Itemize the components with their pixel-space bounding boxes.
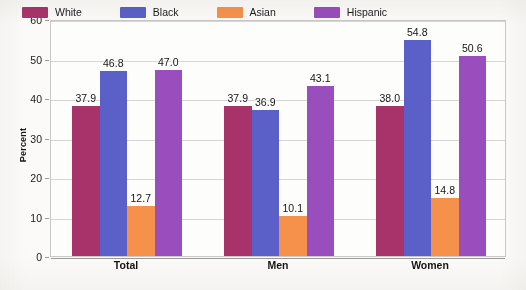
bar-group-women: 38.054.814.850.6 xyxy=(376,21,486,256)
bar-total-white[interactable]: 37.9 xyxy=(72,106,100,256)
bar-group-total: 37.946.812.747.0 xyxy=(72,21,182,256)
x-axis-category-labels: TotalMenWomen xyxy=(50,259,506,279)
x-label-women: Women xyxy=(411,259,449,271)
bar-value-label: 54.8 xyxy=(407,26,427,38)
y-tick-mark-0 xyxy=(45,257,49,258)
bar-women-asian[interactable]: 14.8 xyxy=(431,198,459,256)
y-tick-label-50: 50 xyxy=(14,54,42,66)
bar-fill xyxy=(100,71,128,256)
bar-fill xyxy=(127,206,155,256)
bar-value-label: 38.0 xyxy=(380,92,400,104)
bar-value-label: 47.0 xyxy=(158,56,178,68)
y-tick-mark-10 xyxy=(45,218,49,219)
legend-item-asian[interactable]: Asian xyxy=(217,6,276,18)
y-tick-mark-50 xyxy=(45,60,49,61)
bar-fill xyxy=(252,110,280,256)
plot-area: 37.946.812.747.037.936.910.143.138.054.8… xyxy=(50,20,506,257)
bar-value-label: 43.1 xyxy=(310,72,330,84)
bar-men-black[interactable]: 36.9 xyxy=(252,110,280,256)
bar-value-label: 14.8 xyxy=(435,184,455,196)
bar-fill xyxy=(155,70,183,256)
legend-item-black[interactable]: Black xyxy=(120,6,179,18)
x-label-total: Total xyxy=(114,259,138,271)
bar-fill xyxy=(279,216,307,256)
y-tick-label-10: 10 xyxy=(14,212,42,224)
y-tick-mark-40 xyxy=(45,99,49,100)
plot-inner: 37.946.812.747.037.936.910.143.138.054.8… xyxy=(51,21,505,256)
y-tick-label-40: 40 xyxy=(14,93,42,105)
y-tick-label-0: 0 xyxy=(14,251,42,263)
legend-item-white[interactable]: White xyxy=(22,6,82,18)
legend-label: Hispanic xyxy=(347,6,387,18)
y-tick-label-20: 20 xyxy=(14,172,42,184)
y-tick-mark-60 xyxy=(45,20,49,21)
bar-men-asian[interactable]: 10.1 xyxy=(279,216,307,256)
legend-swatch-icon-asian xyxy=(217,7,243,18)
bar-men-hispanic[interactable]: 43.1 xyxy=(307,86,335,256)
bar-fill xyxy=(459,56,487,256)
bar-value-label: 37.9 xyxy=(228,92,248,104)
bar-fill xyxy=(72,106,100,256)
x-label-men: Men xyxy=(268,259,289,271)
legend-swatch-icon-hispanic xyxy=(314,7,340,18)
bar-total-black[interactable]: 46.8 xyxy=(100,71,128,256)
bar-fill xyxy=(404,40,432,256)
bar-total-hispanic[interactable]: 47.0 xyxy=(155,70,183,256)
bar-value-label: 37.9 xyxy=(76,92,96,104)
bar-total-asian[interactable]: 12.7 xyxy=(127,206,155,256)
legend-label: Black xyxy=(153,6,179,18)
bar-fill xyxy=(431,198,459,256)
chart-legend: WhiteBlackAsianHispanic xyxy=(22,6,425,18)
y-tick-mark-20 xyxy=(45,178,49,179)
bar-men-white[interactable]: 37.9 xyxy=(224,106,252,256)
legend-item-hispanic[interactable]: Hispanic xyxy=(314,6,387,18)
bar-chart: Percent 37.946.812.747.037.936.910.143.1… xyxy=(0,0,526,290)
bar-value-label: 10.1 xyxy=(283,202,303,214)
bar-fill xyxy=(376,106,404,256)
legend-swatch-icon-black xyxy=(120,7,146,18)
bar-value-label: 50.6 xyxy=(462,42,482,54)
y-tick-mark-30 xyxy=(45,139,49,140)
bar-group-men: 37.936.910.143.1 xyxy=(224,21,334,256)
bar-fill xyxy=(224,106,252,256)
legend-swatch-icon-white xyxy=(22,7,48,18)
legend-label: White xyxy=(55,6,82,18)
bar-women-black[interactable]: 54.8 xyxy=(404,40,432,256)
bar-women-white[interactable]: 38.0 xyxy=(376,106,404,256)
y-tick-label-30: 30 xyxy=(14,133,42,145)
bar-value-label: 36.9 xyxy=(255,96,275,108)
legend-label: Asian xyxy=(250,6,276,18)
bar-fill xyxy=(307,86,335,256)
bar-value-label: 46.8 xyxy=(103,57,123,69)
bars-layer: 37.946.812.747.037.936.910.143.138.054.8… xyxy=(51,21,505,256)
bar-women-hispanic[interactable]: 50.6 xyxy=(459,56,487,256)
bar-value-label: 12.7 xyxy=(131,192,151,204)
